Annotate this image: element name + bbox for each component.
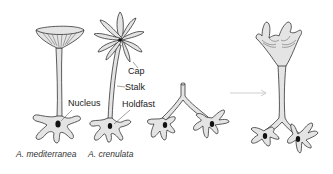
caption-a-mediterranea: A. mediterranea: [16, 149, 76, 159]
nucleus-icon: [163, 122, 167, 128]
nucleus-icon: [263, 133, 267, 139]
nucleus-icon: [108, 123, 112, 129]
label-holdfast: Holdfast: [122, 99, 155, 109]
nucleus-icon: [55, 121, 60, 128]
holdfast: [90, 118, 131, 142]
grafted-holdfasts: [147, 83, 229, 140]
acetabularia-diagram: Cap Stalk Nucleus Holdfast A. mediterran…: [0, 0, 333, 174]
label-nucleus: Nucleus: [68, 98, 101, 108]
arrow-right-icon: [230, 90, 266, 96]
holdfast: [33, 115, 80, 143]
nucleus-icon: [296, 136, 300, 142]
regenerated-cell: [251, 22, 318, 153]
nucleus-icon: [210, 121, 214, 127]
a-crenulata-cell: [90, 12, 144, 142]
label-cap: Cap: [128, 66, 145, 76]
umbrella-cap: [36, 26, 84, 48]
intermediate-cap: [256, 22, 302, 66]
label-stalk: Stalk: [125, 82, 145, 92]
caption-a-crenulata: A. crenulata: [88, 149, 133, 159]
